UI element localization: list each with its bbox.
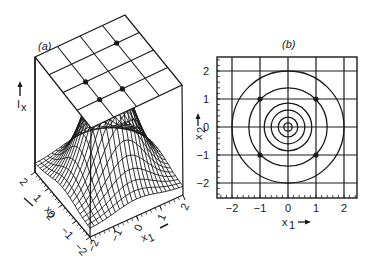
x1-arrow-icon: [160, 224, 168, 228]
x2-axis-label-3d: x 2: [40, 203, 59, 222]
minor-tick: [169, 201, 170, 204]
panel-a-surface-plot: (a) I x −2−1012−2−1012 x 2 x 1: [17, 15, 191, 258]
arrowhead-icon: [305, 220, 311, 225]
marked-point: [313, 96, 318, 101]
x2-axis-label: x 2: [192, 127, 207, 140]
minor-tick: [52, 195, 54, 197]
minor-tick: [99, 233, 100, 236]
panel-a-axis-ticks: −2−1012−2−1012: [18, 172, 192, 258]
x2-label-sub: 2: [195, 127, 207, 133]
x1-tick-label: 2: [178, 201, 191, 211]
minor-tick: [174, 199, 175, 202]
panel-b-contour-plot: (b) −2 −1 0 1 2 2 1 0 −1 −2 x 1: [192, 38, 357, 231]
minor-tick: [58, 201, 60, 203]
y-tick: 1: [203, 93, 209, 105]
axis-tick: [31, 172, 35, 175]
minor-tick: [155, 208, 156, 211]
x2-tick-label: 1: [31, 192, 44, 205]
plane-dot: [97, 97, 102, 102]
arrowhead-icon: [196, 113, 201, 119]
minor-tick: [77, 224, 79, 226]
x-tick: −2: [226, 202, 239, 214]
minor-tick: [137, 216, 138, 219]
minor-tick: [36, 175, 38, 177]
plane-dot: [114, 40, 119, 45]
minor-tick: [41, 182, 43, 184]
plane-dot: [120, 86, 125, 91]
box-edge-right: [182, 85, 183, 195]
ix-label-main: I: [17, 98, 20, 110]
minor-tick: [69, 214, 71, 216]
minor-tick: [164, 203, 165, 206]
plane-dot: [83, 79, 88, 84]
minor-tick: [160, 206, 161, 209]
y-tick: 2: [203, 65, 209, 77]
x-tick: 0: [285, 202, 291, 214]
marked-point: [313, 152, 318, 157]
minor-tick: [127, 220, 128, 223]
x-tick-labels: −2 −1 0 1 2: [226, 202, 347, 214]
ix-axis-label: I x: [17, 81, 27, 113]
minor-tick: [83, 231, 85, 233]
x2-label-main: x: [192, 134, 204, 140]
minor-tick: [132, 218, 133, 221]
minor-tick: [66, 211, 68, 213]
minor-tick: [44, 185, 46, 187]
minor-tick: [118, 224, 119, 227]
x-tick: 2: [341, 202, 347, 214]
minor-tick: [50, 192, 52, 194]
arrowhead-icon: [18, 81, 23, 87]
axis-tick: [183, 195, 185, 200]
x2-tick-label: −1: [59, 224, 76, 241]
minor-tick: [109, 229, 110, 232]
panel-b-label: (b): [282, 38, 296, 50]
y-tick: −2: [196, 177, 209, 189]
minor-tick: [95, 235, 96, 238]
y-tick: −1: [196, 149, 209, 161]
minor-tick: [104, 231, 105, 234]
grid-lines: [217, 57, 357, 198]
minor-tick: [80, 227, 82, 229]
projection-plane: [35, 15, 182, 128]
minor-tick: [39, 179, 41, 181]
minor-ticks: [217, 60, 355, 198]
x1-label-sub: 1: [289, 219, 295, 231]
minor-tick: [72, 218, 74, 220]
ix-label-sub: x: [21, 101, 27, 113]
minor-tick: [150, 210, 151, 213]
minor-tick: [63, 208, 65, 210]
marked-point: [257, 152, 262, 157]
surface-line: [90, 186, 183, 228]
minor-tick: [85, 234, 87, 236]
x2-tick-label: 2: [18, 175, 31, 188]
minor-tick: [123, 222, 124, 225]
minor-tick: [55, 198, 57, 200]
x1-axis-label: x 1: [282, 216, 311, 231]
x1-tick-label: −1: [108, 227, 124, 243]
minor-tick: [141, 214, 142, 217]
figure: (a) I x −2−1012−2−1012 x 2 x 1: [0, 0, 373, 260]
marked-point: [257, 96, 262, 101]
x1-tick-label: 1: [155, 212, 168, 222]
x-tick: −1: [254, 202, 267, 214]
x-tick: 1: [313, 202, 319, 214]
x1-axis-label-3d: x 1: [139, 228, 156, 247]
minor-tick: [146, 212, 147, 215]
x1-label-main: x: [282, 216, 288, 228]
minor-tick: [178, 197, 179, 200]
